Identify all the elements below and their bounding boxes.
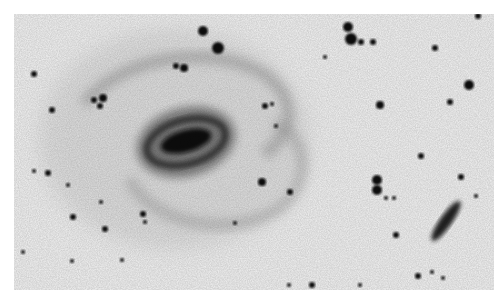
galaxy-image: [14, 14, 494, 290]
film-grain: [14, 14, 494, 290]
galaxy-canvas: [14, 14, 494, 290]
